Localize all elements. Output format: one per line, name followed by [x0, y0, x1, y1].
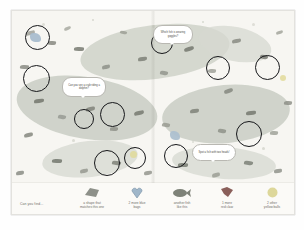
find-target-circle[interactable]: [255, 55, 280, 80]
legend-item-yellow-ball[interactable]: 2 other yellow balls: [250, 186, 294, 214]
speech-bubble-goggles-fish: Which fish is wearing goggles?: [153, 25, 193, 44]
bubble-speck: [252, 23, 255, 26]
legend-item-caption: 2 other yellow balls: [264, 201, 280, 209]
small-fish: [276, 30, 284, 35]
small-fish: [284, 101, 292, 106]
legend-item-blue-bag[interactable]: 2 more blue bags: [115, 186, 159, 214]
bubble-speck: [202, 21, 204, 23]
speech-bubble-text: Which fish is wearing goggles?: [157, 31, 189, 38]
legend-item-caption: a shape that matches this one: [80, 201, 104, 209]
blue-bag-icon: [130, 186, 144, 199]
bubble-speck: [92, 19, 94, 21]
fish-icon: [173, 186, 191, 199]
paper-spread: Can you see a crab riding a dolphin? Whi…: [11, 10, 295, 215]
speech-bubble-text: Can you see a crab riding a dolphin?: [66, 84, 102, 91]
find-target-circle[interactable]: [25, 25, 50, 50]
legend-item-red-claw[interactable]: 1 more red claw: [205, 186, 249, 214]
small-fish: [110, 127, 118, 132]
bubble-speck: [72, 139, 75, 142]
small-fish: [64, 26, 72, 31]
find-target-circle[interactable]: [124, 147, 146, 169]
small-fish: [270, 130, 278, 135]
legend-item-caption: 1 more red claw: [221, 201, 233, 209]
small-fish: [74, 47, 84, 52]
find-target-circle[interactable]: [74, 109, 94, 129]
find-target-circle[interactable]: [94, 150, 120, 176]
bubble-speck: [262, 147, 265, 150]
small-fish: [162, 122, 171, 127]
find-target-circle[interactable]: [23, 65, 50, 92]
legend-item-caption: 2 more blue bags: [129, 201, 146, 209]
find-legend: Can you find... a shape that matches thi…: [12, 182, 294, 214]
small-fish: [274, 169, 282, 174]
small-fish: [24, 132, 34, 138]
find-target-circle[interactable]: [236, 121, 262, 147]
find-target-circle[interactable]: [206, 56, 230, 80]
legend-intro-text: Can you find...: [20, 202, 43, 206]
book-page: Can you see a crab riding a dolphin? Whi…: [0, 0, 304, 230]
bubble-speck: [192, 141, 194, 143]
legend-item-caption: another fish like this: [174, 201, 191, 209]
illustration-scene: Can you see a crab riding a dolphin? Whi…: [12, 11, 294, 183]
legend-items: a shape that matches this one 2 more blu…: [70, 183, 294, 214]
legend-item-fish[interactable]: another fish like this: [160, 186, 204, 214]
grey-shape-icon: [84, 186, 100, 199]
legend-item-grey-shape[interactable]: a shape that matches this one: [70, 186, 114, 214]
yellow-ball-object: [280, 75, 286, 81]
blue-bag-object: [170, 131, 180, 140]
speech-bubble-two-heads-fish: Spot a fish with two heads!: [192, 144, 236, 161]
speech-bubble-crab-dolphin: Can you see a crab riding a dolphin?: [62, 77, 106, 97]
find-target-circle[interactable]: [100, 102, 125, 127]
small-fish: [144, 171, 152, 176]
yellow-ball-icon: [267, 186, 278, 199]
small-fish: [16, 170, 24, 175]
red-claw-icon: [220, 186, 234, 199]
find-target-circle[interactable]: [164, 144, 188, 168]
speech-bubble-text: Spot a fish with two heads!: [199, 151, 230, 155]
